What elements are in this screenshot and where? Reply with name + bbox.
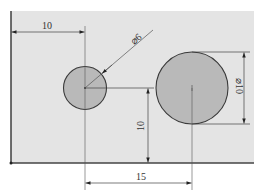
drawing-canvas: 10 ⌀6 10 ⌀10 15 xyxy=(0,0,258,190)
dim-text-vertical-offset: 10 xyxy=(135,121,146,131)
plate-corner-dot xyxy=(10,162,13,165)
dim-text-center-distance: 15 xyxy=(136,171,146,182)
dim-text-left-offset: 10 xyxy=(42,20,52,31)
dim-text-large-diameter: ⌀10 xyxy=(234,78,245,94)
